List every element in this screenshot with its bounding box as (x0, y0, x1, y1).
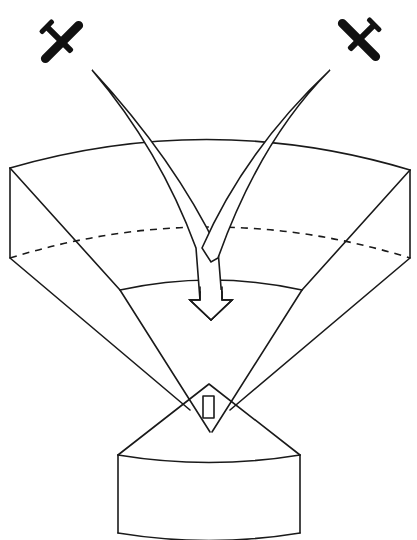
converging-arrows (92, 70, 330, 320)
base-bottom-arc (118, 533, 300, 540)
base-top-arc (118, 455, 300, 463)
sensor-element-rect (203, 396, 214, 418)
airplane-icon (25, 5, 91, 71)
diagram-canvas (0, 0, 417, 540)
arrow-from-right-aircraft (202, 70, 330, 262)
aircraft-left (25, 5, 91, 71)
airplane-icon (329, 3, 395, 69)
sensor-diamond (118, 384, 300, 455)
base-block (118, 455, 300, 540)
sensor (118, 384, 300, 455)
beam-top-arc (10, 139, 410, 170)
beam-line-right-bottom (230, 258, 410, 410)
beam-line-left-bottom (10, 258, 190, 410)
beam-line-right-top (212, 170, 410, 432)
aircraft-right (329, 3, 395, 69)
